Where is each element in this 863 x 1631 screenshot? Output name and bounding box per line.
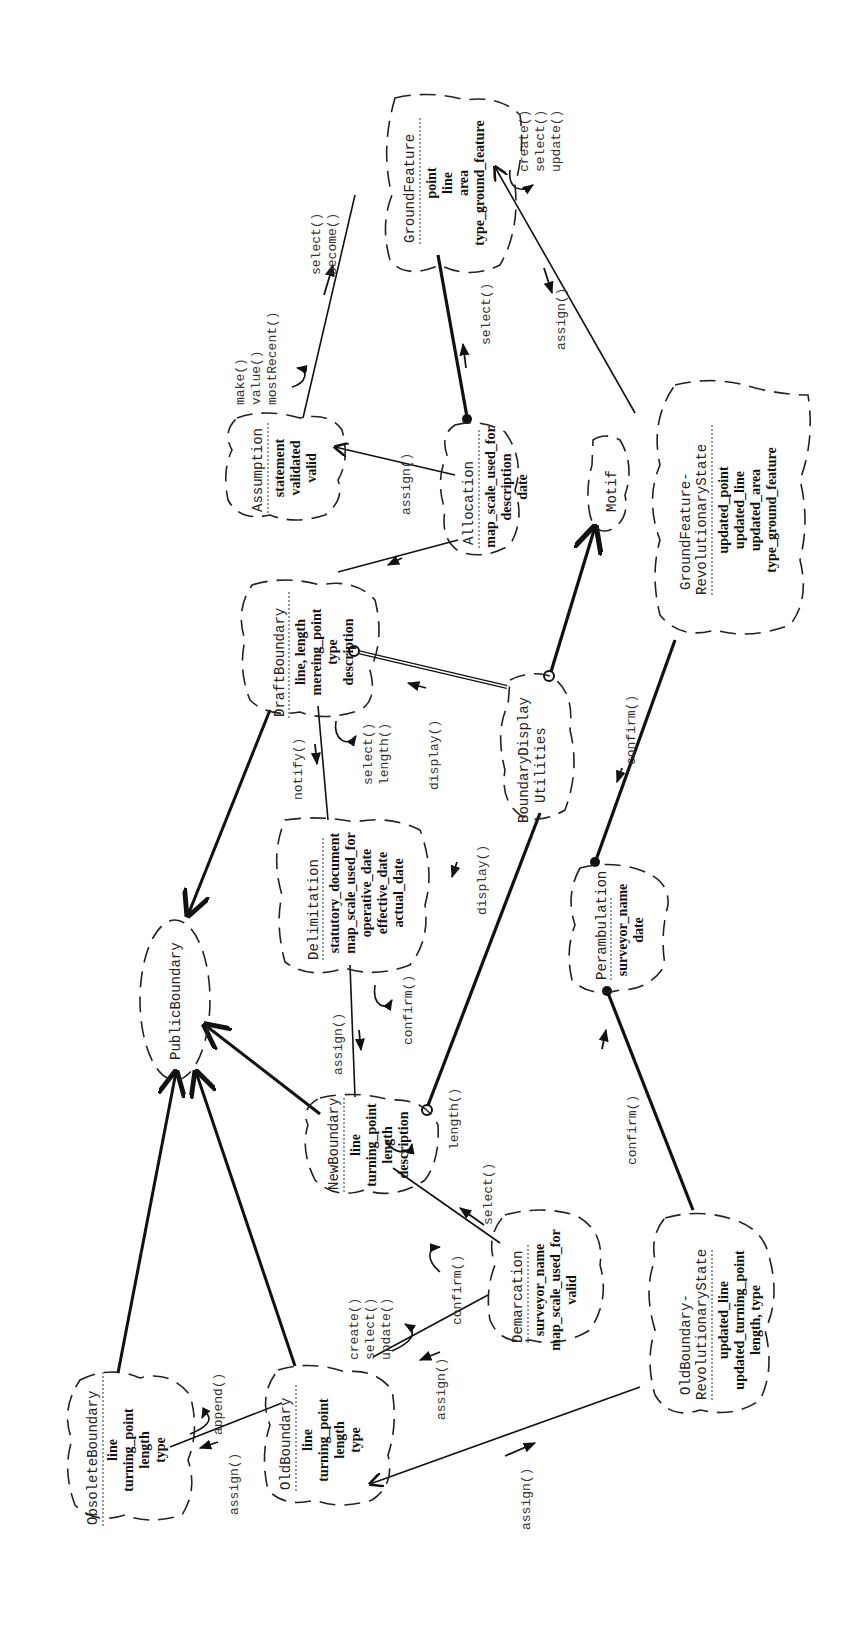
self-loop-icon	[430, 1247, 440, 1272]
message-label: confirm()	[625, 1095, 640, 1165]
message-label: confirm()	[450, 1255, 465, 1325]
class-name: PublicBoundary	[168, 942, 184, 1060]
message-label: display()	[427, 720, 442, 790]
svg-text:date: date	[631, 917, 646, 943]
class-name: Demarcation	[510, 1251, 526, 1343]
svg-text:turning_point: turning_point	[121, 1408, 136, 1492]
svg-text:turning_point: turning_point	[316, 1398, 331, 1482]
inherit-draft-public	[188, 710, 270, 915]
svg-text:type_ground_feature: type_ground_feature	[472, 120, 487, 245]
class-name: RevolutionaryState	[694, 444, 710, 595]
message-label: assign()	[399, 453, 414, 515]
svg-text:updated_line: updated_line	[716, 1281, 731, 1359]
svg-text:length: length	[380, 1126, 395, 1164]
class-name: Utilities	[533, 727, 549, 803]
message-label: display()	[475, 845, 490, 915]
self-loop-icon	[190, 1412, 209, 1434]
class-motif[interactable]: Motif	[588, 436, 629, 531]
message-label: notify()	[291, 738, 306, 800]
link-display-motif	[550, 527, 595, 675]
svg-text:surveyor_name: surveyor_name	[532, 1244, 547, 1337]
class-public-boundary[interactable]: PublicBoundary	[140, 920, 210, 1080]
class-name: OldBoundary	[278, 1398, 294, 1490]
message-arrow-icon	[200, 1442, 218, 1448]
self-loop-icon	[375, 985, 392, 1006]
inherit-new-public	[205, 1025, 320, 1114]
class-diagram: PublicBoundary ObsoleteBoundary line tur…	[0, 0, 863, 1631]
operation-label: mostRecent()	[265, 311, 280, 405]
svg-text:updated_point: updated_point	[716, 466, 731, 553]
svg-text:operative_date: operative_date	[359, 849, 374, 938]
link-groundfeature-allocation	[438, 255, 467, 417]
class-delimitation[interactable]: Delimitation statutory_document map_scal…	[277, 818, 429, 973]
inherit-obsolete-public	[118, 1072, 176, 1373]
message-label: become()	[325, 213, 340, 275]
message-label: select()	[479, 283, 494, 345]
svg-text:line: line	[300, 1429, 315, 1451]
svg-text:valid: valid	[564, 1275, 579, 1305]
class-name: DraftBoundary	[272, 608, 288, 717]
message-label: confirm()	[401, 975, 416, 1045]
operation-label: create()	[347, 1298, 362, 1360]
message-arrow-icon	[408, 683, 426, 688]
link-allocation-assumption	[335, 447, 455, 475]
class-name: Motif	[604, 470, 620, 512]
class-perambulation[interactable]: Perambulation surveyor_name date	[569, 864, 668, 992]
class-name: Allocation	[461, 461, 477, 545]
class-demarcation[interactable]: Demarcation surveyor_name map_scale_used…	[488, 1210, 603, 1351]
class-new-boundary[interactable]: NewBoundary line turning_point length de…	[305, 1094, 438, 1193]
operation-label: make()	[233, 358, 248, 405]
class-assumption[interactable]: Assumption statement validated valid	[226, 413, 345, 520]
inherit-old-public	[196, 1072, 295, 1366]
class-name: Assumption	[250, 428, 266, 512]
message-label: confirm()	[624, 695, 639, 765]
svg-text:updated_area: updated_area	[748, 469, 763, 551]
svg-text:effective_date: effective_date	[375, 852, 390, 934]
class-boundary-display-utilities[interactable]: BoundaryDisplay Utilities	[501, 674, 574, 823]
message-label: assign()	[227, 1453, 242, 1515]
message-label: length()	[447, 1088, 462, 1150]
svg-text:line: line	[105, 1439, 120, 1461]
operation-label: select()	[361, 723, 376, 785]
svg-text:length: length	[332, 1421, 347, 1459]
svg-text:surveyor_name: surveyor_name	[615, 884, 630, 977]
svg-text:turning_point: turning_point	[364, 1103, 379, 1187]
class-name: GroundFeature	[402, 134, 418, 243]
class-ground-feature-revolutionary-state[interactable]: GroundFeature- RevolutionaryState update…	[653, 381, 811, 634]
svg-text:description: description	[396, 1111, 411, 1178]
svg-text:description: description	[341, 618, 356, 685]
class-allocation[interactable]: Allocation map_scale_used_for descriptio…	[440, 423, 530, 555]
svg-text:area: area	[456, 170, 471, 196]
svg-text:map_scale_used_for: map_scale_used_for	[343, 832, 358, 953]
svg-text:length, type: length, type	[748, 1285, 763, 1355]
operation-label: select()	[363, 1298, 378, 1360]
class-obsolete-boundary[interactable]: ObsoleteBoundary line turning_point leng…	[68, 1372, 195, 1527]
message-label: append()	[211, 1373, 226, 1435]
operation-label: value()	[249, 350, 264, 405]
class-name: NewBoundary	[326, 1098, 342, 1190]
message-label: assign()	[519, 1468, 534, 1530]
class-ground-feature[interactable]: GroundFeature point line area type_groun…	[385, 94, 521, 272]
message-arrow-icon	[315, 744, 317, 764]
message-arrow-icon	[452, 862, 457, 877]
svg-text:mereing_point: mereing_point	[309, 608, 324, 695]
operation-label: create()	[517, 110, 532, 172]
svg-text:line: line	[348, 1134, 363, 1156]
svg-text:map_scale_used_for: map_scale_used_for	[548, 1229, 563, 1350]
class-name: Perambulation	[594, 871, 610, 980]
class-name: RevolutionaryState	[694, 1249, 710, 1400]
svg-text:updated_turning_point: updated_turning_point	[732, 1250, 747, 1390]
link-end-dot	[602, 986, 612, 996]
message-arrow-icon	[602, 1030, 606, 1049]
self-loop-icon	[292, 368, 305, 387]
svg-text:type: type	[153, 1437, 168, 1463]
self-loop-icon	[336, 721, 356, 742]
class-name: Delimitation	[306, 859, 322, 960]
message-label: assign()	[331, 1013, 346, 1075]
class-old-boundary-revolutionary-state[interactable]: OldBoundary- RevolutionaryState updated_…	[649, 1213, 774, 1412]
class-old-boundary[interactable]: OldBoundary line turning_point length ty…	[264, 1365, 394, 1505]
svg-text:statement: statement	[272, 439, 287, 498]
svg-text:actual_date: actual_date	[391, 858, 406, 927]
svg-text:description: description	[499, 453, 514, 520]
message-arrow-icon	[463, 344, 466, 368]
